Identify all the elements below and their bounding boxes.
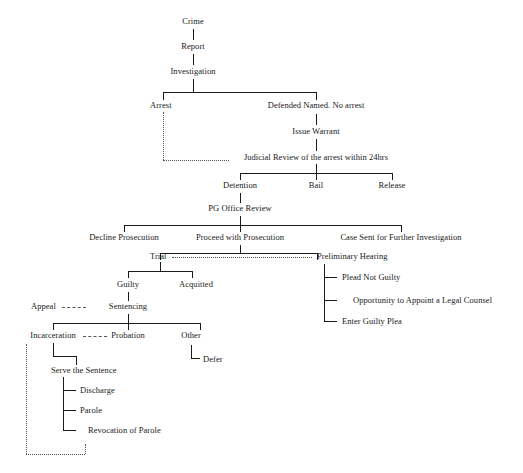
node-detention: Detention — [223, 181, 257, 190]
connector-branch-discharge — [63, 390, 76, 391]
connector-incarceration-down — [53, 343, 54, 357]
dashed-connector-appeal-sentencing — [62, 307, 86, 308]
connector-investigation-split — [163, 92, 316, 93]
node-trial: Trial — [150, 252, 166, 261]
connector-pgoffice-split — [124, 225, 401, 226]
node-other: Other — [181, 331, 201, 340]
connector-split-to-arrest — [163, 92, 164, 100]
connector-detention-pgoffice — [240, 193, 241, 203]
dashed-connector-incarceration-probation — [83, 336, 107, 337]
connector-split-to-other — [200, 323, 201, 330]
connector-split-to-acquitted — [192, 271, 193, 278]
connector-other-defer-vertical — [191, 345, 192, 359]
connector-split-to-release — [392, 173, 393, 180]
connector-split-to-incarceration — [53, 323, 54, 330]
node-appeal: Appeal — [31, 302, 56, 311]
connector-proceed-split — [160, 253, 317, 254]
node-plead-not-guilty: Plead Not Guilty — [342, 273, 400, 282]
node-crime: Crime — [182, 17, 204, 26]
connector-branch-parole — [63, 410, 76, 411]
node-serve-the-sentence: Serve the Sentence — [51, 366, 117, 375]
connector-guilty-sentencing — [128, 292, 129, 301]
connector-split-to-casesent — [401, 225, 402, 232]
node-defended-named: Defended Named. No arrest — [268, 101, 365, 110]
node-arrest: Arrest — [150, 101, 172, 110]
connector-split-to-guilty — [128, 271, 129, 278]
node-preliminary-hearing: Preliminary Hearing — [317, 252, 388, 261]
connector-preliminary-bracket — [324, 264, 325, 322]
node-opportunity-to-appoint-legal-counsel: Opportunity to Appoint a Legal Counsel — [353, 296, 492, 305]
node-decline-prosecution: Decline Prosecution — [89, 233, 159, 242]
node-enter-guilty-plea: Enter Guilty Plea — [342, 317, 402, 326]
node-guilty: Guilty — [117, 280, 139, 289]
connector-investigation-down — [193, 79, 194, 92]
connector-trial-down — [160, 262, 161, 271]
connector-split-to-defended — [316, 92, 317, 100]
connector-pgoffice-down — [240, 216, 241, 225]
dotted-loop-bottom-horizontal — [26, 454, 85, 455]
node-report: Report — [181, 42, 204, 51]
node-revocation-of-parole: Revocation of Parole — [88, 426, 161, 435]
connector-crime-report — [193, 29, 194, 40]
dotted-loop-left-vertical — [26, 344, 27, 454]
connector-report-investigation — [193, 54, 194, 65]
node-case-sent-further-investigation: Case Sent for Further Investigation — [340, 233, 461, 242]
connector-issuewarrant-judicialreview — [316, 139, 317, 151]
connector-split-to-detention — [240, 173, 241, 180]
connector-to-serve-sentence — [76, 356, 77, 365]
connector-incarceration-right — [53, 356, 76, 357]
connector-trial-split — [128, 271, 192, 272]
connector-sentencing-down — [128, 314, 129, 323]
node-investigation: Investigation — [170, 67, 215, 76]
connector-defended-issuewarrant — [316, 114, 317, 125]
node-pg-office-review: PG Office Review — [208, 204, 271, 213]
connector-branch-opportunity-counsel — [324, 300, 337, 301]
node-bail: Bail — [309, 181, 323, 190]
connector-split-to-proceed — [240, 225, 241, 232]
dotted-loop-right-vertical — [85, 444, 86, 454]
dotted-connector-trial-preliminary — [172, 257, 312, 258]
node-sentencing: Sentencing — [109, 302, 147, 311]
node-incarceration: Incarceration — [30, 331, 75, 340]
connector-sentencing-split — [53, 323, 200, 324]
connector-other-defer-horizontal — [191, 358, 200, 359]
criminal-justice-flowchart: Crime Report Investigation Arrest Defend… — [0, 0, 523, 473]
node-issue-warrant: Issue Warrant — [292, 127, 339, 136]
connector-split-to-probation — [128, 323, 129, 330]
connector-judicialreview-down — [316, 164, 317, 173]
node-parole: Parole — [80, 406, 102, 415]
node-defer: Defer — [203, 355, 223, 364]
connector-serve-sentence-bracket — [63, 377, 64, 430]
node-judicial-review: Judicial Review of the arrest within 24h… — [244, 153, 388, 162]
connector-branch-enter-guilty-plea — [324, 321, 337, 322]
node-release: Release — [379, 181, 406, 190]
connector-branch-plead-not-guilty — [324, 277, 337, 278]
node-discharge: Discharge — [80, 386, 115, 395]
dotted-connector-arrest-down — [163, 112, 164, 160]
node-probation: Probation — [111, 331, 145, 340]
connector-split-to-bail — [316, 173, 317, 180]
node-proceed-with-prosecution: Proceed with Prosecution — [196, 233, 284, 242]
node-acquitted: Acquitted — [179, 280, 213, 289]
connector-split-to-decline — [124, 225, 125, 232]
dotted-connector-arrest-to-judicialreview — [163, 160, 229, 161]
connector-proceed-down — [240, 245, 241, 253]
connector-branch-revocation — [63, 430, 76, 431]
